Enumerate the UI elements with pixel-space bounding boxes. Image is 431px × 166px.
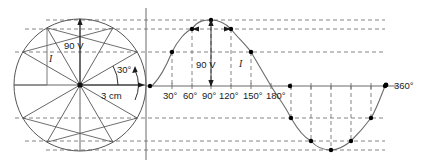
phasor-center-dot — [77, 82, 82, 87]
rotation-arrow — [132, 66, 138, 100]
chord-d — [23, 118, 113, 142]
xtick-label-180: 180° — [266, 90, 286, 101]
phasor-radius-label: 3 cm — [101, 90, 122, 101]
wave-amplitude-label: 90 V — [196, 59, 216, 70]
spoke-60 — [80, 28, 113, 85]
phasor-radius-arrowhead — [138, 82, 145, 87]
phasor-radius-arrow — [80, 82, 145, 87]
rotation-arrowhead — [132, 66, 137, 73]
chord-c — [47, 118, 137, 142]
endpoint-360-dot — [384, 83, 389, 88]
point-150 — [249, 50, 253, 54]
point-0 — [148, 84, 152, 88]
phasor-amplitude-arrow — [77, 18, 82, 85]
xtick-label-120: 120° — [219, 90, 239, 101]
figure-canvas: 90 V 30° 3 cm I 90 V I 30° 60° 90° 120° … — [0, 0, 431, 166]
phasor-current-label: I — [48, 53, 53, 64]
point-30 — [170, 50, 174, 54]
point-300 — [349, 139, 353, 143]
phasor-sine-diagram: 90 V 30° 3 cm I 90 V I 30° 60° 90° 120° … — [0, 0, 431, 166]
phasor-angle-label: 30° — [117, 64, 132, 75]
spoke-210 — [23, 85, 80, 118]
xtick-label-360: 360° — [394, 80, 414, 91]
xtick-label-60: 60° — [183, 90, 198, 101]
sine-curve — [152, 20, 385, 150]
point-210 — [289, 116, 293, 120]
wave-current-label: I — [238, 58, 243, 69]
phasor-amplitude-label: 90 V — [64, 40, 84, 51]
spoke-240 — [47, 85, 80, 142]
point-330 — [369, 116, 373, 120]
xtick-label-30: 30° — [163, 90, 178, 101]
point-270 — [329, 148, 333, 152]
ordinate-lines — [172, 20, 371, 150]
xtick-label-150: 150° — [243, 90, 263, 101]
point-240 — [309, 139, 313, 143]
point-180 — [288, 84, 292, 88]
xtick-label-90: 90° — [202, 90, 217, 101]
wave-width-arrows — [192, 27, 231, 32]
chord-a — [47, 28, 137, 52]
